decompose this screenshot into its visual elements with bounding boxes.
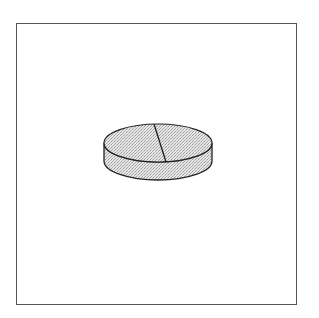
tablet-illustration <box>0 0 319 318</box>
tablet-top-face <box>104 124 212 162</box>
